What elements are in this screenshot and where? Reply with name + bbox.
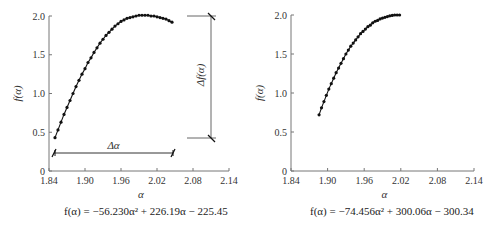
x-axis-label: α — [382, 188, 388, 200]
delta-f-label: Δf(α) — [194, 63, 207, 87]
x-tick-label: 1.96 — [355, 175, 373, 186]
data-point — [56, 128, 59, 131]
right-equation-text: f(α) = −74.456α² + 300.06α − 300.34 — [310, 205, 474, 217]
data-point — [349, 45, 352, 48]
data-point — [152, 14, 155, 17]
data-point — [167, 19, 170, 22]
data-point — [361, 30, 364, 33]
data-point — [113, 24, 116, 27]
chart-canvas: 00.51.01.52.01.841.901.962.022.082.14αf(… — [0, 0, 493, 228]
fit-curve — [55, 15, 172, 137]
data-point — [359, 32, 362, 35]
data-point — [325, 94, 328, 97]
data-point — [317, 113, 320, 116]
data-point — [92, 51, 95, 54]
left-equation: f(α) = −56.230α² + 226.19α − 225.45 — [64, 205, 228, 217]
data-point — [398, 13, 401, 16]
data-point — [128, 16, 131, 19]
data-point — [116, 22, 119, 25]
data-point — [369, 24, 372, 27]
data-point — [155, 15, 158, 18]
data-point — [98, 42, 101, 45]
data-point — [86, 61, 89, 64]
data-point — [77, 79, 80, 82]
y-tick-label: 2.0 — [33, 11, 46, 22]
data-point — [65, 106, 68, 109]
data-point — [104, 34, 107, 37]
x-tick-label: 2.14 — [220, 175, 238, 186]
x-tick-label: 1.96 — [112, 175, 130, 186]
data-point — [322, 100, 325, 103]
data-point — [83, 67, 86, 70]
data-point — [68, 99, 71, 102]
data-point — [342, 57, 345, 60]
data-point — [62, 113, 65, 116]
y-tick-label: 0.5 — [33, 127, 46, 138]
data-point — [327, 88, 330, 91]
data-point — [107, 31, 110, 34]
data-point — [158, 16, 161, 19]
x-axis-label: α — [138, 188, 144, 200]
data-point — [149, 14, 152, 17]
x-tick-label: 2.02 — [392, 175, 410, 186]
data-point — [161, 17, 164, 20]
x-tick-label: 1.90 — [319, 175, 337, 186]
x-tick-label: 1.84 — [282, 175, 300, 186]
data-point — [53, 136, 56, 139]
y-tick-label: 1.5 — [33, 49, 46, 60]
y-axis-label: f(α) — [253, 85, 266, 101]
data-point — [364, 27, 367, 30]
y-tick-label: 0.5 — [275, 127, 288, 138]
data-point — [344, 52, 347, 55]
x-tick-label: 2.02 — [148, 175, 166, 186]
data-point — [347, 49, 350, 52]
data-point — [131, 15, 134, 18]
fit-curve — [319, 15, 400, 115]
x-tick-label: 2.14 — [465, 175, 483, 186]
data-point — [170, 21, 173, 24]
data-point — [320, 106, 323, 109]
data-point — [59, 121, 62, 124]
data-point — [146, 14, 149, 17]
data-point — [352, 41, 355, 44]
data-point — [122, 18, 125, 21]
data-point — [332, 77, 335, 80]
data-point — [140, 14, 143, 17]
data-point — [80, 73, 83, 76]
data-point — [164, 18, 167, 21]
data-point — [330, 82, 333, 85]
data-point — [101, 38, 104, 41]
plot-right: 00.51.01.52.01.841.901.962.022.082.14αf(… — [253, 10, 483, 201]
left-equation-text: f(α) = −56.230α² + 226.19α − 225.45 — [64, 205, 228, 217]
y-tick-label: 2.0 — [275, 10, 288, 21]
data-point — [74, 85, 77, 88]
plot-left: 00.51.01.52.01.841.901.962.022.082.14αf(… — [11, 11, 238, 201]
y-axis-label: f(α) — [11, 85, 24, 101]
delta-alpha-label: Δα — [106, 139, 119, 151]
data-point — [71, 92, 74, 95]
data-point — [110, 28, 113, 31]
data-point — [335, 71, 338, 74]
x-tick-label: 1.84 — [40, 175, 58, 186]
y-tick-label: 1.0 — [275, 88, 288, 99]
right-equation: f(α) = −74.456α² + 300.06α − 300.34 — [310, 205, 474, 217]
y-tick-label: 1.5 — [275, 49, 288, 60]
data-point — [354, 38, 357, 41]
data-point — [143, 14, 146, 17]
data-point — [95, 46, 98, 49]
x-tick-label: 2.08 — [184, 175, 202, 186]
y-tick-label: 1.0 — [33, 88, 46, 99]
data-point — [89, 56, 92, 59]
x-tick-label: 1.90 — [76, 175, 94, 186]
data-point — [137, 14, 140, 17]
data-point — [339, 62, 342, 65]
data-point — [125, 17, 128, 20]
data-point — [337, 66, 340, 69]
x-tick-label: 2.08 — [429, 175, 447, 186]
data-point — [134, 14, 137, 17]
data-point — [119, 20, 122, 23]
data-point — [357, 35, 360, 38]
